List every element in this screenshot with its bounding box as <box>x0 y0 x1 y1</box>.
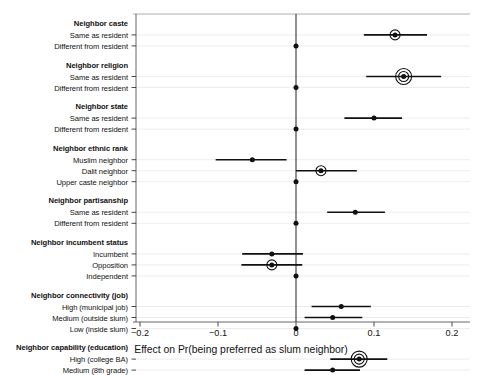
estimate-marker <box>305 315 363 320</box>
category-label: Incumbent <box>0 249 128 258</box>
category-label: Medium (outside slum) <box>0 313 128 322</box>
estimate-marker <box>294 43 299 48</box>
x-tick-label: −0.2 <box>131 328 149 338</box>
estimate-marker <box>312 304 371 309</box>
estimate-marker <box>294 85 299 90</box>
estimate-marker <box>216 157 287 162</box>
group-label: Neighbor caste <box>0 19 128 28</box>
point-estimate <box>339 304 344 309</box>
point-estimate <box>269 262 274 267</box>
point-estimate <box>330 368 335 373</box>
group-label: Neighbor connectivity (job) <box>0 290 128 299</box>
x-tick-label: 0 <box>293 328 298 338</box>
estimate-marker <box>294 127 299 132</box>
point-estimate <box>372 116 377 121</box>
estimate-marker <box>327 210 385 215</box>
estimate-marker <box>296 166 357 176</box>
category-label: Medium (8th grade) <box>0 366 128 375</box>
estimate-marker <box>242 251 303 256</box>
category-label: Upper caste neighbor <box>0 177 128 186</box>
x-tick-label: 0.1 <box>368 328 381 338</box>
estimate-marker <box>364 30 427 40</box>
point-estimate <box>294 221 299 226</box>
point-estimate <box>294 127 299 132</box>
group-label: Neighbor religion <box>0 60 128 69</box>
category-label: High (municipal job) <box>0 302 128 311</box>
point-estimate <box>294 43 299 48</box>
point-estimate <box>294 273 299 278</box>
category-label: Independent <box>0 271 128 280</box>
point-estimate <box>330 315 335 320</box>
category-label: Dalit neighbor <box>0 166 128 175</box>
point-estimate <box>250 157 255 162</box>
group-label: Neighbor incumbent status <box>0 238 128 247</box>
estimate-marker <box>294 179 299 184</box>
point-estimate <box>401 74 406 79</box>
estimate-marker <box>344 116 402 121</box>
point-estimate <box>357 357 362 362</box>
category-label: Opposition <box>0 260 128 269</box>
category-label: Different from resident <box>0 83 128 92</box>
estimate-marker <box>294 273 299 278</box>
point-estimate <box>294 179 299 184</box>
category-label: Different from resident <box>0 41 128 50</box>
coefficient-plot: Neighbor casteSame as residentDifferent … <box>0 0 482 375</box>
group-label: Neighbor partisanship <box>0 196 128 205</box>
category-label: Same as resident <box>0 208 128 217</box>
category-label: Muslim neighbor <box>0 155 128 164</box>
category-label: Same as resident <box>0 114 128 123</box>
estimate-marker <box>366 69 441 85</box>
x-tick-label: −0.1 <box>209 328 227 338</box>
category-label: Low (inside slum) <box>0 324 128 333</box>
point-estimate <box>294 85 299 90</box>
point-estimate <box>269 251 274 256</box>
x-axis-title: Effect on Pr(being preferred as slum nei… <box>0 344 482 355</box>
category-label: High (college BA) <box>0 355 128 364</box>
x-tick-label: 0.2 <box>446 328 459 338</box>
estimate-marker <box>241 260 302 270</box>
estimate-marker <box>294 221 299 226</box>
group-label: Neighbor ethnic rank <box>0 143 128 152</box>
category-label: Same as resident <box>0 72 128 81</box>
point-estimate <box>353 210 358 215</box>
category-label: Different from resident <box>0 219 128 228</box>
point-estimate <box>393 32 398 37</box>
estimate-marker <box>305 368 360 373</box>
category-label: Different from resident <box>0 125 128 134</box>
group-label: Neighbor state <box>0 102 128 111</box>
category-label: Same as resident <box>0 30 128 39</box>
point-estimate <box>318 168 323 173</box>
